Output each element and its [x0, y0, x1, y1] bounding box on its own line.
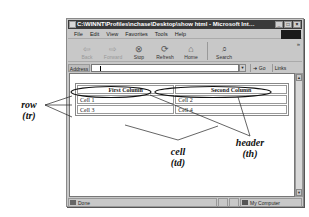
ie-logo-throbber-icon [281, 30, 301, 39]
search-icon: ⌕ [222, 44, 227, 54]
zone-text: My Computer [250, 200, 280, 206]
home-button[interactable]: ⌂ Home [178, 41, 204, 61]
header-annotation-label: header [225, 137, 275, 148]
menu-view[interactable]: View [106, 30, 118, 38]
address-input[interactable] [91, 64, 239, 72]
search-label: Search [216, 54, 232, 60]
minimize-button[interactable]: _ [275, 21, 283, 28]
back-button[interactable]: ⇦ Back [74, 41, 100, 61]
refresh-label: Refresh [156, 54, 174, 60]
close-button[interactable]: × [293, 21, 301, 28]
address-bar: Address ▼ ➜ Go Links » [68, 63, 302, 72]
window-title: C:\WINNT\Profiles\nchase\Desktop\show ht… [77, 20, 257, 29]
forward-label: Forward [104, 54, 122, 60]
page-done-icon [70, 200, 76, 205]
row-annotation-label: row [14, 99, 44, 110]
ie-app-icon [69, 21, 76, 28]
cell-annotation-tag: (td) [158, 157, 198, 168]
header-annotation-tag: (th) [225, 148, 275, 159]
table-cell: Cell 4 [175, 105, 287, 114]
maximize-button[interactable]: □ [284, 21, 292, 28]
title-bar[interactable]: C:\WINNT\Profiles\nchase\Desktop\show ht… [68, 20, 302, 29]
menu-bar: File Edit View Favorites Tools Help [68, 30, 302, 39]
scroll-down-arrow-icon[interactable]: ▼ [296, 189, 302, 196]
my-computer-icon [242, 200, 248, 205]
security-zone-pane: My Computer [240, 198, 302, 207]
header-annotation: header (th) [225, 137, 275, 159]
table-cell: Cell 1 [77, 95, 174, 104]
go-button[interactable]: ➜ Go [250, 64, 268, 72]
address-label: Address [68, 64, 90, 72]
search-button[interactable]: ⌕ Search [211, 41, 237, 61]
forward-button[interactable]: ⇨ Forward [100, 41, 126, 61]
cell-annotation: cell (td) [158, 146, 198, 168]
links-button[interactable]: Links » [272, 64, 288, 72]
stop-button[interactable]: ⊗ Stop [126, 41, 152, 61]
menu-favorites[interactable]: Favorites [125, 30, 148, 38]
status-bar: Done My Computer [68, 198, 302, 207]
go-arrow-icon: ➜ [253, 65, 257, 71]
forward-arrow-icon: ⇨ [109, 44, 117, 54]
demo-table: First Column Second Column Cell 1 Cell 2… [75, 83, 289, 116]
toolbar-separator [207, 42, 208, 60]
menu-edit[interactable]: Edit [90, 30, 99, 38]
table-row: Cell 1 Cell 2 [77, 95, 287, 104]
row-annotation-tag: (tr) [14, 110, 44, 121]
status-text: Done [78, 200, 90, 206]
toolbar-overflow-chevron-icon[interactable]: » [297, 41, 300, 47]
table-header-cell: Second Column [175, 85, 287, 94]
back-arrow-icon: ⇦ [83, 44, 91, 54]
home-label: Home [184, 54, 197, 60]
address-dropdown-button[interactable]: ▼ [239, 64, 246, 72]
menu-tools[interactable]: Tools [155, 30, 168, 38]
scroll-up-arrow-icon[interactable]: ▲ [296, 74, 302, 81]
stop-label: Stop [134, 54, 144, 60]
back-label: Back [81, 54, 92, 60]
go-label: Go [259, 65, 266, 71]
menu-help[interactable]: Help [175, 30, 186, 38]
refresh-icon: ⟳ [161, 44, 169, 54]
table-row: Cell 3 Cell 4 [77, 105, 287, 114]
table-cell: Cell 3 [77, 105, 174, 114]
refresh-button[interactable]: ⟳ Refresh [152, 41, 178, 61]
table-header-cell: First Column [77, 85, 174, 94]
row-annotation: row (tr) [14, 99, 44, 121]
browser-window: C:\WINNT\Profiles\nchase\Desktop\show ht… [66, 18, 304, 207]
status-empty-pane [218, 198, 228, 207]
status-text-pane: Done [68, 198, 217, 207]
text-caret [100, 66, 101, 71]
stop-icon: ⊗ [135, 44, 143, 54]
cell-annotation-label: cell [158, 146, 198, 157]
table-cell: Cell 2 [175, 95, 287, 104]
vertical-scrollbar[interactable]: ▲ ▼ [295, 73, 303, 197]
standard-toolbar: ⇦ Back ⇨ Forward ⊗ Stop ⟳ Refresh ⌂ Home… [68, 40, 302, 62]
home-icon: ⌂ [188, 44, 193, 54]
menu-file[interactable]: File [74, 30, 83, 38]
status-empty-pane [229, 198, 239, 207]
page-content: First Column Second Column Cell 1 Cell 2… [69, 73, 295, 197]
header-row: First Column Second Column [77, 85, 287, 94]
